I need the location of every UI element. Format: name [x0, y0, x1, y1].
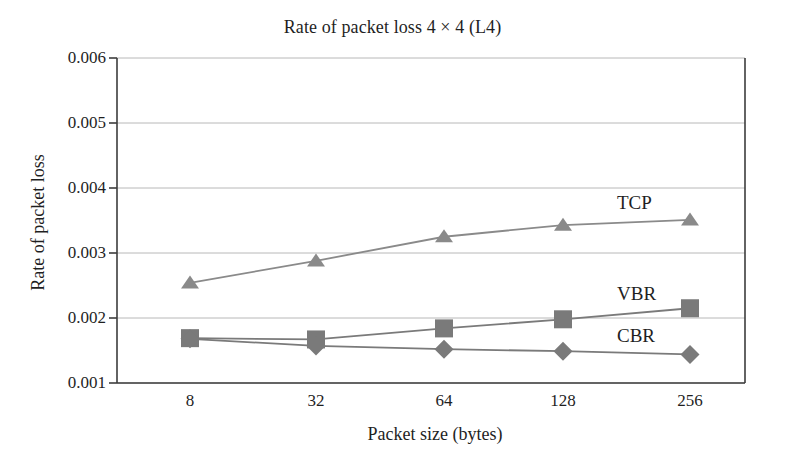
- data-point-marker: [435, 319, 453, 337]
- chart-figure: Rate of packet loss 4 × 4 (L4) Rate of p…: [0, 0, 785, 460]
- data-point-marker: [554, 310, 572, 328]
- data-point-marker: [681, 299, 699, 317]
- series-line: [190, 220, 690, 283]
- axis-lines: [109, 58, 745, 383]
- data-point-marker: [681, 345, 700, 364]
- series-layer: [181, 212, 700, 363]
- series-vbr: [181, 299, 699, 348]
- series-tcp: [181, 212, 699, 288]
- data-point-marker: [681, 212, 699, 225]
- plot-area: [0, 0, 785, 460]
- data-point-marker: [435, 340, 454, 359]
- data-point-marker: [554, 342, 573, 361]
- gridlines: [117, 58, 745, 383]
